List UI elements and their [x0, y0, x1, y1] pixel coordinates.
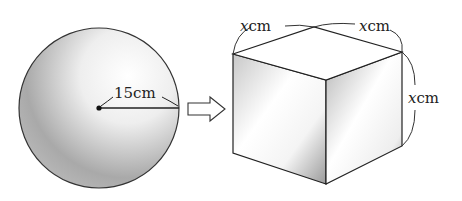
- edge-label-right: xcm: [408, 89, 439, 107]
- edge-brace-top-center: [285, 23, 355, 27]
- transform-arrow-icon: [188, 97, 225, 121]
- radius-label: 15cm: [114, 84, 156, 102]
- edge-brace-right-lower: [402, 110, 415, 146]
- sphere-to-cube-diagram: 15cm xcm xcm xcm: [0, 0, 462, 201]
- edge-label-top-left: xcm: [240, 17, 271, 35]
- sphere: 15cm: [19, 28, 179, 188]
- edge-label-top-right: xcm: [359, 17, 390, 35]
- center-point: [96, 105, 101, 110]
- cube: xcm xcm xcm: [233, 17, 439, 184]
- edge-brace-right-upper: [402, 52, 415, 85]
